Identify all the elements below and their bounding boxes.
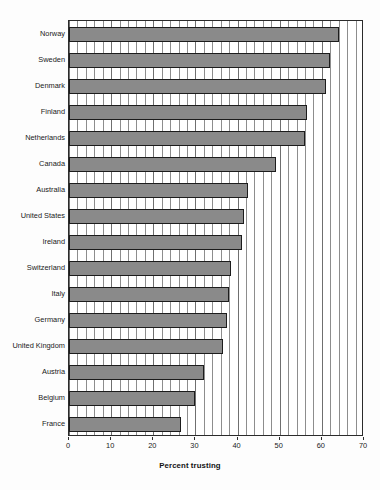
y-axis-label: Australia: [0, 185, 65, 194]
bar-row: [69, 333, 362, 359]
y-axis-label: Sweden: [0, 55, 65, 64]
y-axis-label: France: [0, 419, 65, 428]
x-tick-label: 60: [317, 441, 325, 450]
x-tick-label: 0: [66, 441, 70, 450]
plot-area: [68, 20, 363, 436]
x-tick-mark: [152, 437, 153, 440]
bar: [69, 209, 244, 224]
bar-row: [69, 281, 362, 307]
bar-row: [69, 229, 362, 255]
bar-row: [69, 411, 362, 436]
bar: [69, 235, 242, 250]
bar: [69, 365, 204, 380]
y-axis-label: United Kingdom: [0, 341, 65, 350]
y-axis-label: United States: [0, 211, 65, 220]
bar: [69, 339, 223, 354]
bar-row: [69, 73, 362, 99]
bar-chart: NorwaySwedenDenmarkFinlandNetherlandsCan…: [0, 0, 380, 490]
y-axis-label: Netherlands: [0, 133, 65, 142]
x-tick-mark: [237, 437, 238, 440]
x-tick-label: 30: [190, 441, 198, 450]
x-tick-label: 20: [148, 441, 156, 450]
y-axis-label: Canada: [0, 159, 65, 168]
y-axis-label: Germany: [0, 315, 65, 324]
x-tick-mark: [279, 437, 280, 440]
bar: [69, 105, 307, 120]
y-axis-label: Italy: [0, 289, 65, 298]
bar-row: [69, 307, 362, 333]
x-axis-title: Percent trusting: [0, 461, 380, 470]
bar-row: [69, 151, 362, 177]
x-tick-label: 40: [232, 441, 240, 450]
y-axis-category-labels: NorwaySwedenDenmarkFinlandNetherlandsCan…: [0, 20, 65, 436]
x-tick-label: 70: [359, 441, 367, 450]
bar-row: [69, 47, 362, 73]
bar: [69, 417, 181, 432]
bar-row: [69, 125, 362, 151]
x-tick-label: 50: [275, 441, 283, 450]
x-tick-mark: [194, 437, 195, 440]
bar: [69, 261, 231, 276]
bar: [69, 157, 276, 172]
y-axis-label: Denmark: [0, 81, 65, 90]
bar: [69, 391, 195, 406]
bar-row: [69, 359, 362, 385]
bar: [69, 79, 326, 94]
x-tick-label: 10: [106, 441, 114, 450]
bar: [69, 53, 330, 68]
y-axis-label: Finland: [0, 107, 65, 116]
x-tick-mark: [68, 437, 69, 440]
x-tick-mark: [363, 437, 364, 440]
x-tick-mark: [110, 437, 111, 440]
bar: [69, 287, 229, 302]
bar-row: [69, 177, 362, 203]
bar: [69, 183, 248, 198]
bar: [69, 27, 339, 42]
bar-row: [69, 203, 362, 229]
y-axis-label: Austria: [0, 367, 65, 376]
bar: [69, 131, 305, 146]
bars-layer: [69, 21, 362, 435]
bar-row: [69, 99, 362, 125]
y-axis-label: Switzerland: [0, 263, 65, 272]
y-axis-label: Ireland: [0, 237, 65, 246]
x-tick-mark: [321, 437, 322, 440]
bar-row: [69, 21, 362, 47]
x-axis-ticks: 010203040506070: [0, 437, 380, 451]
bar: [69, 313, 227, 328]
bar-row: [69, 255, 362, 281]
y-axis-label: Norway: [0, 29, 65, 38]
y-axis-label: Belgium: [0, 393, 65, 402]
bar-row: [69, 385, 362, 411]
